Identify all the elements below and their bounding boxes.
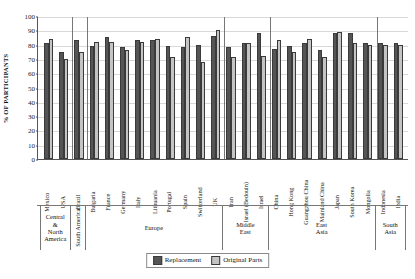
group-separator (72, 17, 73, 159)
bar-group (71, 17, 86, 159)
bar-original-parts (261, 56, 266, 159)
x-tick-label: Mexico (40, 160, 55, 205)
region-label-cell: South America (71, 206, 86, 250)
bar-original-parts (292, 52, 297, 159)
x-tick-label: South Korea (345, 160, 360, 205)
plot-area: 0102030405060708090100 (37, 17, 408, 160)
y-tick-label: 40 (28, 99, 35, 106)
x-tick-label: Hong Kong (284, 160, 299, 205)
y-axis-title: % OF PARTICIPANTS (2, 17, 12, 160)
bar-series-container (38, 17, 408, 159)
y-tick-label: 60 (28, 71, 35, 78)
x-tick-label: Israel (Bedouin) (238, 160, 253, 205)
chart-legend: Replacement Original Parts (146, 253, 270, 268)
x-tick-label: Lithuania (147, 160, 162, 205)
x-tick-label: Mongolia (360, 160, 375, 205)
bar-original-parts (140, 42, 145, 159)
bar-group (345, 17, 360, 159)
group-separator (270, 17, 271, 159)
region-label-cell: Central&NorthAmerica (40, 206, 71, 250)
x-tick-label: Japan (330, 160, 345, 205)
bar-group (163, 17, 178, 159)
x-tick-label: India (391, 160, 406, 205)
group-separator (224, 17, 225, 159)
bar-group (208, 17, 223, 159)
x-tick-label: Iran (223, 160, 238, 205)
bar-group (391, 17, 406, 159)
group-separator (377, 17, 378, 159)
group-separator (87, 17, 88, 159)
bar-group (178, 17, 193, 159)
y-tick-label: 20 (28, 128, 35, 135)
bar-original-parts (353, 43, 358, 159)
y-tick-label: 50 (28, 85, 35, 92)
bar-original-parts (185, 37, 190, 159)
bar-original-parts (49, 39, 54, 159)
legend-item-original-parts: Original Parts (211, 256, 262, 265)
bar-group (330, 17, 345, 159)
x-tick-label: USA (55, 160, 70, 205)
bar-group (147, 17, 162, 159)
bar-original-parts (368, 45, 373, 159)
bar-original-parts (201, 62, 206, 159)
bar-original-parts (64, 59, 69, 159)
x-tick-label: Israel (254, 160, 269, 205)
bar-group (41, 17, 56, 159)
x-tick-label: France (101, 160, 116, 205)
x-tick-label: China (269, 160, 284, 205)
x-tick-label: Mainland China (315, 160, 330, 205)
bar-original-parts (246, 43, 251, 159)
bar-original-parts (307, 39, 312, 159)
bar-original-parts (231, 57, 236, 159)
bar-original-parts (398, 45, 403, 159)
bar-original-parts (277, 40, 282, 159)
bar-group (284, 17, 299, 159)
bar-original-parts (383, 45, 388, 159)
x-tick-label: Italy (132, 160, 147, 205)
bar-group (193, 17, 208, 159)
bar-original-parts (125, 50, 130, 159)
x-tick-label: UK (208, 160, 223, 205)
x-axis-labels: MexicoUSABrazilBulgariaFranceGermanyItal… (37, 160, 408, 205)
bar-original-parts (170, 57, 175, 159)
y-tick-label: 0 (32, 157, 36, 164)
y-tick-label: 80 (28, 42, 35, 49)
x-tick-label: Bulgaria (86, 160, 101, 205)
legend-item-replacement: Replacement (153, 256, 202, 265)
chart-figure: % OF PARTICIPANTS 0102030405060708090100… (0, 0, 415, 279)
bar-group (132, 17, 147, 159)
bar-group (269, 17, 284, 159)
y-tick-label: 90 (28, 28, 35, 35)
x-tick-label: Germany (116, 160, 131, 205)
bar-group (87, 17, 102, 159)
bar-group (223, 17, 238, 159)
x-tick-label: Brazil (71, 160, 86, 205)
y-tick-label: 10 (28, 142, 35, 149)
bar-group (117, 17, 132, 159)
bar-group (360, 17, 375, 159)
x-tick-label: Indonesia (376, 160, 391, 205)
legend-swatch-replacement (153, 256, 162, 265)
bar-original-parts (216, 30, 221, 159)
x-tick-label: Switzerland (193, 160, 208, 205)
y-tick-label: 30 (28, 114, 35, 121)
region-label-cell: EastAsia (269, 206, 376, 250)
x-tick-label: Spain (177, 160, 192, 205)
bar-group (56, 17, 71, 159)
legend-swatch-original-parts (211, 256, 220, 265)
x-tick-label: Portugal (162, 160, 177, 205)
region-label-cell: MiddleEast (223, 206, 269, 250)
bar-group (375, 17, 390, 159)
region-group-labels: Central&NorthAmericaSouth AmericaEuropeM… (37, 205, 408, 250)
bar-group (239, 17, 254, 159)
bar-group (254, 17, 269, 159)
y-tick-label: 100 (25, 14, 36, 21)
bar-group (315, 17, 330, 159)
region-label-cell: Europe (86, 206, 223, 250)
bar-original-parts (337, 32, 342, 159)
bar-original-parts (155, 39, 160, 159)
bar-original-parts (109, 42, 114, 159)
bar-group (102, 17, 117, 159)
x-tick-label: Guangzhou China (299, 160, 314, 205)
y-tick-label: 70 (28, 56, 35, 63)
